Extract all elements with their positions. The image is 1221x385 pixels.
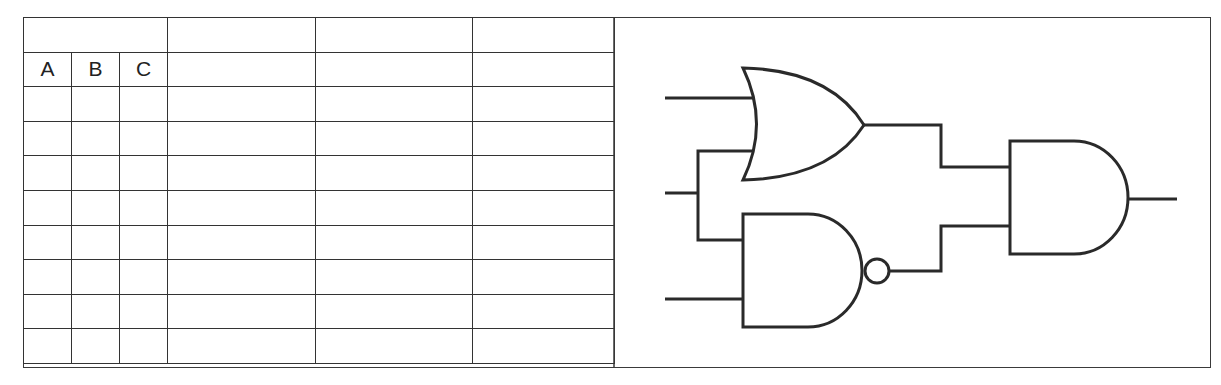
or-gate-icon: [743, 68, 864, 180]
logic-circuit-diagram: [0, 0, 1221, 385]
or-output-wire: [864, 125, 1010, 167]
nand-inversion-bubble: [865, 259, 889, 283]
nand-output-wire: [889, 226, 1010, 271]
and-gate-icon: [1010, 141, 1128, 254]
nand-gate-icon: [743, 214, 862, 327]
